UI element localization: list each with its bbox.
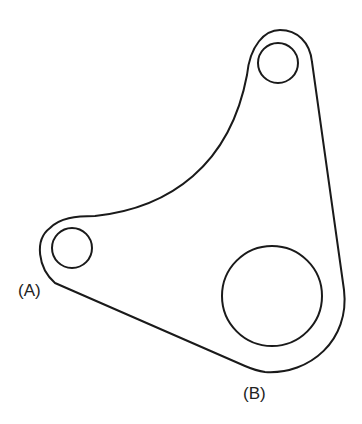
link-plate-diagram: (A) (B) — [0, 0, 362, 424]
label-a: (A) — [18, 281, 41, 300]
hole-a — [52, 228, 92, 268]
hole-b — [222, 246, 322, 346]
outer-contour — [40, 30, 345, 372]
label-b: (B) — [243, 384, 266, 403]
hole-top — [258, 43, 298, 83]
